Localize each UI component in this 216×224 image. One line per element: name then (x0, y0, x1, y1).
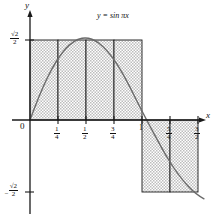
x-axis-label: x (206, 111, 210, 120)
x-tick-label-threequarter-denominator: 4 (110, 134, 116, 141)
x-tick-label-one: 1 (139, 124, 143, 132)
x-tick-label-quarter: 1 4 (54, 126, 60, 142)
x-axis-arrowhead (199, 117, 206, 122)
x-tick-label-threequarter: 3 4 (110, 126, 116, 142)
x-tick-label-half-denominator: 2 (82, 134, 88, 141)
y-tick-label-neg-sqrt2-over-2-denominator: 2 (9, 191, 18, 198)
x-tick-label-threehalf: 3 2 (194, 126, 200, 142)
y-axis-arrowhead (27, 10, 32, 17)
y-axis-label: y (25, 1, 29, 10)
x-tick-label-fivequarter-denominator: 4 (166, 134, 172, 141)
rect-half-to-threequarter (86, 40, 114, 120)
rect-threequarter-to-one (114, 40, 142, 120)
y-tick-label-sqrt2-over-2: √2 2 (10, 31, 19, 47)
x-tick-label-quarter-denominator: 4 (54, 134, 60, 141)
origin-label: 0 (20, 122, 25, 131)
x-tick-label-threehalf-denominator: 2 (194, 134, 200, 141)
plot-canvas (0, 0, 216, 224)
x-tick-label-fivequarter: 5 4 (166, 126, 172, 142)
y-tick-label-neg-sqrt2-over-2: − √2 2 (4, 183, 18, 199)
y-tick-label-sqrt2-over-2-denominator: 2 (10, 39, 19, 46)
figure-sine-riemann-sum: y x y = sin πx 0 √2 2 − √2 2 1 4 1 2 3 4 (0, 0, 216, 224)
x-tick-label-half: 1 2 (82, 126, 88, 142)
curve-equation-label: y = sin πx (97, 12, 129, 20)
